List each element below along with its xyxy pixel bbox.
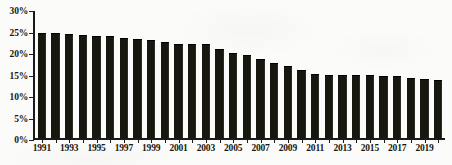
x-axis-label: 2011 [306, 143, 324, 153]
x-axis-label: 1991 [33, 143, 51, 153]
x-axis-label: 2015 [361, 143, 379, 153]
y-axis-tick [29, 119, 34, 120]
bar [92, 36, 100, 138]
bar [379, 76, 387, 138]
bar [147, 40, 155, 138]
y-axis-tick [29, 97, 34, 98]
bar [38, 33, 46, 138]
y-axis-label: 25% [10, 28, 28, 38]
bar [65, 34, 73, 138]
x-axis-label: 1995 [87, 143, 105, 153]
x-axis-label: 2003 [197, 143, 215, 153]
x-axis-label: 2009 [279, 143, 297, 153]
x-axis-label: 2001 [169, 143, 187, 153]
bar [434, 80, 442, 138]
bar [243, 55, 251, 138]
x-axis-label: 2013 [333, 143, 351, 153]
bar [284, 66, 292, 138]
bar [215, 49, 223, 138]
y-axis-tick [29, 33, 34, 34]
x-axis-tick [302, 140, 303, 143]
bar [256, 59, 264, 138]
bar [229, 53, 237, 139]
bar [420, 79, 428, 138]
x-axis-tick [384, 140, 385, 143]
y-axis-tick [29, 11, 34, 12]
x-axis-tick [356, 140, 357, 143]
x-axis-label: 2019 [415, 143, 433, 153]
x-axis-tick [274, 140, 275, 143]
y-axis-label: 20% [10, 49, 28, 59]
x-axis-tick [220, 140, 221, 143]
x-axis-label: 2017 [388, 143, 406, 153]
x-axis-label: 1999 [142, 143, 160, 153]
bar [407, 78, 415, 138]
bar [202, 44, 210, 138]
bar [120, 38, 128, 138]
x-axis-label: 1993 [60, 143, 78, 153]
bar [270, 63, 278, 138]
bar [352, 75, 360, 138]
y-axis-label: 30% [10, 6, 28, 16]
bar [79, 35, 87, 138]
bar [106, 36, 114, 138]
y-axis-tick [29, 140, 34, 141]
x-axis-tick [411, 140, 412, 143]
bar [51, 33, 59, 138]
bar [338, 75, 346, 139]
x-axis-label: 2005 [224, 143, 242, 153]
x-axis-tick [192, 140, 193, 143]
y-axis-label: 5% [14, 114, 28, 124]
y-axis-tick [29, 54, 34, 55]
bar [161, 42, 169, 138]
bar [325, 75, 333, 139]
bar [188, 44, 196, 138]
y-axis-label: 0% [14, 135, 28, 145]
x-axis-tick [438, 140, 439, 143]
x-axis-tick [165, 140, 166, 143]
bar [311, 74, 319, 138]
x-axis-label: 2007 [251, 143, 269, 153]
y-axis-label: 10% [10, 92, 28, 102]
x-axis-tick [247, 140, 248, 143]
y-axis-tick [29, 76, 34, 77]
bar [174, 44, 182, 138]
plot-area: 0%5%10%15%20%25%30% 19911993199519971999… [33, 11, 445, 140]
x-axis-tick [138, 140, 139, 143]
x-axis-tick [83, 140, 84, 143]
x-axis-label: 1997 [115, 143, 133, 153]
bar [297, 70, 305, 138]
bar [393, 76, 401, 138]
bar [133, 39, 141, 138]
x-axis-tick [56, 140, 57, 143]
bar-chart: 0%5%10%15%20%25%30% 19911993199519971999… [0, 0, 452, 165]
bar-series [35, 11, 445, 138]
x-axis-tick [329, 140, 330, 143]
x-axis-tick [110, 140, 111, 143]
bar [366, 75, 374, 138]
y-axis-label: 15% [10, 71, 28, 81]
